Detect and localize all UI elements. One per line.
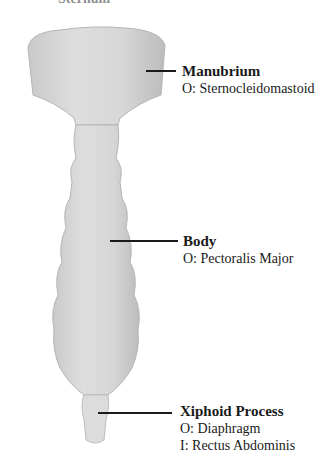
attachment: O: Pectoralis Major bbox=[183, 250, 293, 267]
body-shape bbox=[53, 125, 140, 395]
manubrium-shape bbox=[28, 27, 165, 125]
xiphoid-label: Xiphoid Process O: Diaphragm I: Rectus A… bbox=[180, 402, 295, 454]
xiphoid-leader-line bbox=[98, 412, 172, 414]
attachment: O: Sternocleidomastoid bbox=[182, 80, 315, 97]
body-leader-line bbox=[110, 240, 178, 242]
attachment: O: Diaphragm bbox=[180, 420, 295, 437]
part-name: Manubrium bbox=[182, 62, 315, 80]
xiphoid-shape bbox=[82, 395, 109, 443]
manubrium-label: Manubrium O: Sternocleidomastoid bbox=[182, 62, 315, 97]
body-label: Body O: Pectoralis Major bbox=[183, 232, 293, 267]
part-name: Xiphoid Process bbox=[180, 402, 295, 420]
part-name: Body bbox=[183, 232, 293, 250]
manubrium-leader-line bbox=[146, 70, 176, 72]
attachment: I: Rectus Abdominis bbox=[180, 437, 295, 454]
